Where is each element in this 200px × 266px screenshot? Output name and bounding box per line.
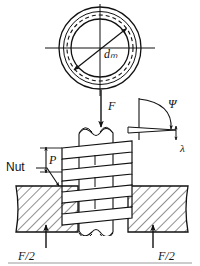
label-F: F — [107, 99, 116, 113]
nut-block-right — [128, 186, 188, 232]
label-dm: dₘ — [104, 47, 118, 61]
label-P: P — [48, 153, 57, 167]
label-lambda: λ — [179, 142, 185, 154]
label-F2-left: F/2 — [17, 249, 35, 263]
label-Nut: Nut — [6, 160, 25, 174]
power-screw-diagram: dₘ F Ψ λ Nut — [0, 0, 200, 266]
label-F2-right: F/2 — [157, 249, 175, 263]
